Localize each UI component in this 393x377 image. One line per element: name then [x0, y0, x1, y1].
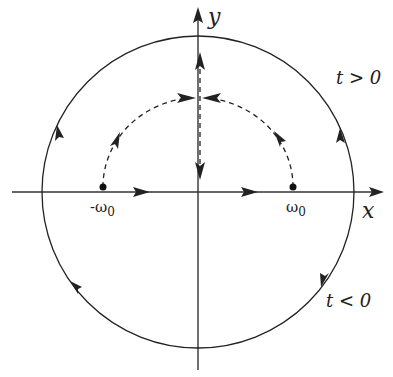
direction-arrow-icon: [195, 162, 205, 180]
direction-arrow-icon: [195, 52, 205, 70]
direction-arrow-icon: [274, 131, 286, 147]
direction-arrow-icon: [320, 273, 329, 287]
direction-arrow-icon: [177, 93, 196, 103]
pole-positive: [290, 184, 297, 191]
pole-positive-label: ω0: [286, 198, 306, 219]
upper-region-label: t > 0: [336, 67, 381, 88]
direction-arrow-icon: [110, 132, 120, 149]
pole-negative: [100, 184, 107, 191]
lower-region-label: t < 0: [326, 290, 371, 311]
direction-arrow-icon: [202, 93, 221, 103]
y-axis-label: y: [207, 4, 221, 29]
direction-arrow-icon: [70, 281, 82, 294]
x-axis-label: x: [362, 198, 375, 223]
contour-diagram: -ω0 ω0 x y t > 0 t < 0: [0, 0, 393, 377]
pole-negative-label: -ω0: [90, 198, 115, 219]
